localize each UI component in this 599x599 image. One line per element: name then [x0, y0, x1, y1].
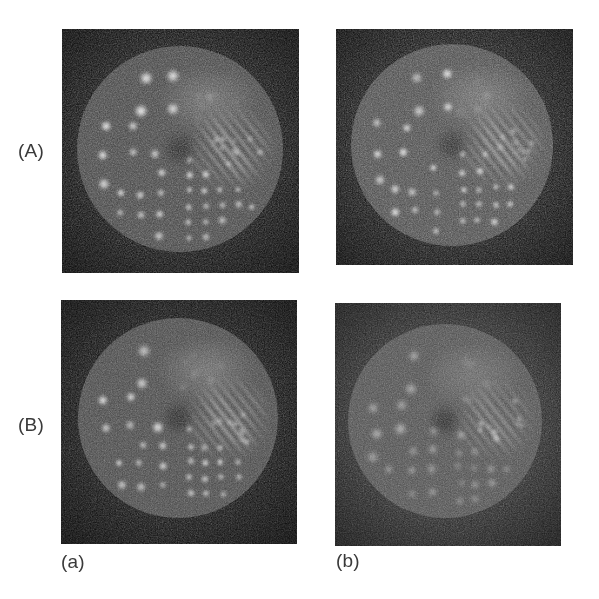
- phantom-rod: [458, 480, 465, 487]
- phantom-rod: [234, 458, 242, 466]
- phantom-rod: [520, 149, 526, 155]
- phantom-rod: [410, 206, 419, 215]
- phantom-center-hub: [165, 134, 196, 165]
- phantom-rod: [158, 461, 168, 471]
- phantom-rod: [227, 419, 234, 426]
- phantom-rod: [492, 201, 500, 209]
- phantom-rod: [239, 427, 246, 434]
- phantom-rod: [471, 448, 479, 456]
- phantom-rod: [218, 201, 227, 210]
- phantom-rod: [409, 447, 418, 456]
- phantom-rod: [493, 183, 500, 190]
- phantom-rod: [487, 464, 496, 473]
- phantom-rod: [471, 480, 480, 489]
- phantom-rod: [407, 187, 418, 198]
- phantom-rod: [230, 147, 239, 156]
- phantom-rod: [159, 481, 167, 489]
- phantom-rod: [206, 93, 212, 99]
- phantom-rod: [428, 445, 437, 454]
- phantom-rod: [136, 210, 146, 220]
- phantom-rod: [390, 207, 400, 217]
- phantom-rod: [428, 488, 436, 496]
- phantom-rod: [512, 139, 519, 146]
- phantom-rod: [496, 143, 505, 152]
- phantom-rod: [456, 497, 464, 505]
- phantom-rod: [476, 167, 485, 176]
- phantom-rod: [474, 217, 481, 224]
- phantom-body: [78, 318, 278, 518]
- phantom-rod: [441, 67, 453, 79]
- phantom-rod: [200, 186, 209, 195]
- phantom-rod: [185, 425, 192, 432]
- phantom-rod: [472, 104, 480, 112]
- row-label-A: (A): [18, 141, 44, 160]
- phantom-rod: [484, 90, 492, 98]
- phantom-rod: [408, 466, 416, 474]
- phantom-rod: [202, 202, 210, 210]
- phantom-rod: [522, 156, 528, 162]
- phantom-rod: [187, 489, 196, 498]
- phantom-rod: [474, 107, 482, 115]
- phantom-sector-stripes: [431, 75, 553, 216]
- phantom-rod: [486, 382, 492, 388]
- phantom-rod: [193, 369, 200, 376]
- phantom-body: [348, 324, 542, 518]
- phantom-rod: [205, 92, 213, 100]
- panel-image-Ba: [61, 300, 297, 544]
- phantom-rod: [135, 481, 146, 492]
- phantom-rod: [385, 465, 393, 473]
- phantom-rod: [458, 107, 464, 113]
- phantom-rod: [116, 188, 125, 197]
- phantom-rod: [184, 203, 193, 212]
- phantom-rod: [166, 102, 180, 116]
- phantom-rod: [512, 398, 519, 405]
- phantom-rod: [488, 478, 497, 487]
- phantom-sector-stripes: [159, 77, 283, 221]
- phantom-center-hub: [163, 403, 193, 433]
- phantom-rod: [207, 376, 213, 382]
- phantom-rod: [185, 473, 193, 481]
- phantom-rod: [201, 458, 209, 466]
- phantom-rod: [182, 358, 189, 365]
- phantom-rod: [220, 491, 227, 498]
- phantom-rod: [225, 161, 231, 167]
- phantom-rod: [184, 219, 192, 227]
- phantom-rod: [187, 443, 195, 451]
- phantom-rod: [248, 203, 256, 211]
- phantom-rod: [233, 422, 238, 427]
- phantom-rod: [190, 353, 196, 359]
- phantom-rod: [459, 217, 467, 225]
- phantom-rod: [195, 92, 202, 99]
- phantom-rod: [216, 444, 224, 452]
- phantom-rod: [206, 378, 212, 384]
- phantom-rod: [217, 216, 226, 225]
- phantom-rod: [394, 423, 407, 436]
- phantom-rod: [412, 104, 426, 118]
- phantom-rod: [432, 227, 440, 235]
- panel-image-Aa: [62, 29, 299, 273]
- phantom-rod: [370, 428, 382, 440]
- phantom-rod: [467, 361, 473, 367]
- phantom-scene: [336, 29, 573, 265]
- phantom-rod: [395, 399, 408, 412]
- phantom-rod: [128, 120, 139, 131]
- phantom-rod: [210, 377, 216, 383]
- row-label-B: (B): [18, 415, 44, 434]
- phantom-rod: [115, 459, 123, 467]
- phantom-rod: [455, 109, 462, 116]
- phantom-rod: [486, 424, 492, 430]
- phantom-rod: [470, 359, 476, 365]
- phantom-body: [77, 46, 283, 252]
- phantom-rod: [226, 161, 232, 167]
- figure-root: (A) (B) (a) (b): [0, 0, 599, 599]
- phantom-center-hub: [430, 406, 459, 435]
- phantom-rod: [186, 186, 193, 193]
- phantom-rod: [482, 102, 489, 109]
- phantom-rod: [128, 148, 138, 158]
- phantom-rod: [506, 201, 514, 209]
- phantom-rod: [234, 186, 241, 193]
- phantom-rod: [138, 440, 147, 449]
- phantom-scene: [335, 303, 561, 546]
- phantom-rod: [507, 182, 516, 191]
- phantom-rod: [179, 383, 188, 392]
